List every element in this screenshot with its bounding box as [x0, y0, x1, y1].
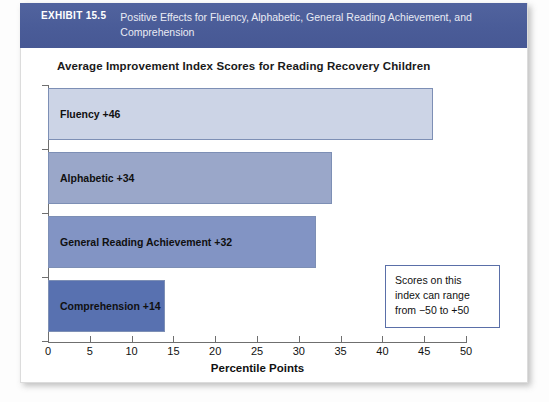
x-axis-label: Percentile Points [48, 362, 467, 374]
x-axis-tick [299, 336, 300, 342]
x-axis-tick-label: 25 [251, 345, 263, 357]
x-axis-tick [424, 336, 425, 342]
bar-label: Comprehension +14 [49, 300, 161, 312]
x-axis-tick-label: 35 [334, 345, 346, 357]
x-axis-tick-label: 5 [87, 345, 93, 357]
x-axis-tick [173, 336, 174, 342]
exhibit-title: Positive Effects for Fluency, Alphabetic… [120, 10, 472, 40]
x-axis-line [48, 342, 467, 343]
x-axis-tick-label: 20 [209, 345, 221, 357]
note-box: Scores on this index can range from −50 … [385, 265, 500, 328]
x-axis-tick [215, 336, 216, 342]
y-axis-tick [42, 213, 48, 214]
x-axis-tick-label: 30 [293, 345, 305, 357]
bar-fluency: Fluency +46 [48, 88, 433, 140]
exhibit-header: EXHIBIT 15.5 Positive Effects for Fluenc… [20, 3, 527, 48]
x-axis-tick [257, 336, 258, 342]
exhibit-figure: EXHIBIT 15.5 Positive Effects for Fluenc… [0, 0, 549, 402]
bar-general-reading-achievement: General Reading Achievement +32 [48, 216, 316, 268]
x-axis-tick [132, 336, 133, 342]
x-axis-tick-label: 50 [460, 345, 472, 357]
x-axis-tick [48, 336, 49, 342]
x-axis-tick [90, 336, 91, 342]
note-line-1: Scores on this [395, 273, 499, 288]
x-axis-tick [382, 336, 383, 342]
x-axis-tick-label: 45 [418, 345, 430, 357]
x-axis-tick-label: 10 [125, 345, 137, 357]
y-axis-tick [42, 85, 48, 86]
note-line-2: index can range [395, 288, 499, 303]
bar-label: Alphabetic +34 [49, 172, 134, 184]
x-axis-tick-label: 0 [45, 345, 51, 357]
x-axis-tick-label: 15 [167, 345, 179, 357]
bar-comprehension: Comprehension +14 [48, 280, 165, 332]
x-axis-tick-label: 40 [376, 345, 388, 357]
y-axis-tick [42, 277, 48, 278]
bar-alphabetic: Alphabetic +34 [48, 152, 332, 204]
y-axis-tick [42, 149, 48, 150]
exhibit-number: EXHIBIT 15.5 [41, 10, 106, 21]
x-axis-tick [341, 336, 342, 342]
note-line-3: from −50 to +50 [395, 303, 499, 318]
bar-label: General Reading Achievement +32 [49, 236, 232, 248]
chart-title: Average Improvement Index Scores for Rea… [57, 60, 430, 72]
x-axis-tick [466, 336, 467, 342]
bar-label: Fluency +46 [49, 108, 120, 120]
exhibit-title-line-1: Positive Effects for Fluency, Alphabetic… [120, 11, 472, 23]
exhibit-title-line-2: Comprehension [120, 26, 194, 38]
